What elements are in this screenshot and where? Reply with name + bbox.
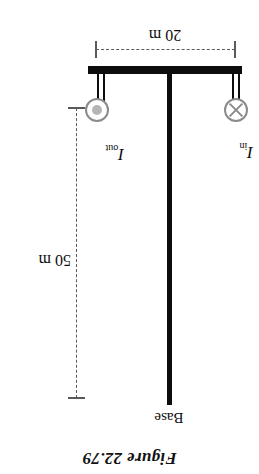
vertical-mast	[167, 68, 172, 405]
width-dimension-line	[96, 49, 235, 50]
circle-x-icon	[224, 98, 248, 122]
width-dimension-tick-right	[95, 41, 97, 58]
lead-wire	[238, 71, 240, 101]
lead-wire	[232, 71, 234, 101]
lead-wire	[103, 71, 105, 101]
current-out-subscript: out	[106, 143, 119, 154]
height-dimension-tick-top	[68, 397, 85, 399]
conductor-lead-left	[231, 71, 240, 101]
height-dimension-tick-bottom	[68, 107, 85, 109]
current-out-label: Iout	[106, 143, 124, 164]
height-dimension-line	[76, 108, 77, 398]
horizontal-base-bar	[88, 66, 242, 74]
conductor-lead-right	[96, 71, 105, 101]
circle-dot-icon	[85, 98, 109, 122]
current-in-subscript: in	[240, 141, 248, 152]
lead-wire	[97, 71, 99, 101]
figure-canvas: Figure 22.79 Base Iin Iout 50 m 20 m	[0, 0, 259, 474]
center-dot	[92, 105, 102, 115]
width-dimension-label: 20 m	[128, 26, 202, 44]
current-in-symbol: I	[247, 143, 253, 162]
height-dimension-label: 50 m	[39, 251, 71, 269]
current-in-label: Iin	[240, 141, 253, 162]
figure-title: Figure 22.79	[0, 448, 259, 468]
base-label: Base	[131, 409, 207, 426]
width-dimension-tick-left	[234, 41, 236, 58]
current-out-symbol: I	[118, 145, 124, 164]
